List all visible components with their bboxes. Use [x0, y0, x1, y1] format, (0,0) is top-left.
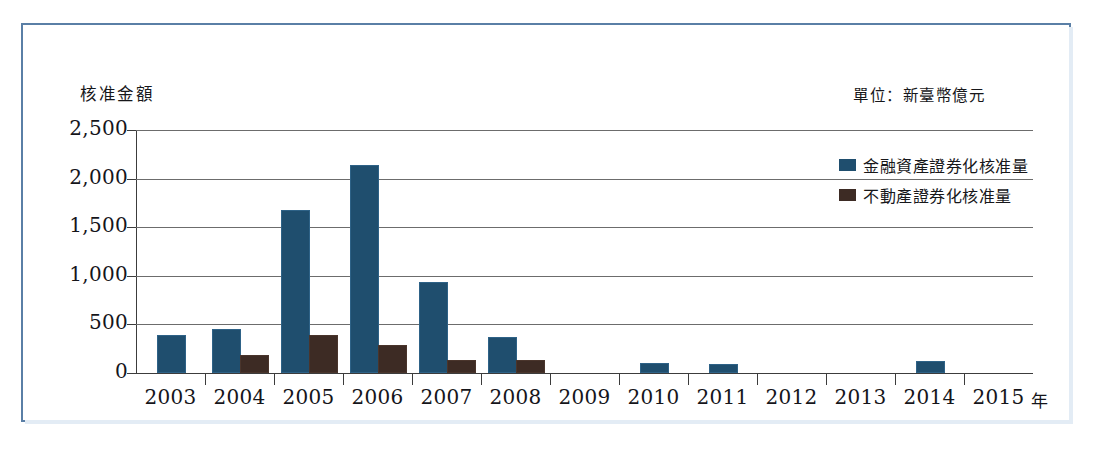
x-axis-tick-mark [688, 374, 689, 385]
x-axis-tick-label: 2004 [205, 385, 274, 409]
x-axis-tick-mark [757, 374, 758, 385]
y-axis-tick-mark [127, 179, 136, 180]
x-axis-tick-label: 2006 [343, 385, 412, 409]
bar-financial-2003 [157, 335, 186, 373]
chart-unit-note: 單位：新臺幣億元 [853, 83, 985, 105]
bar-financial-2004 [212, 329, 241, 373]
x-axis-tick-label: 2005 [274, 385, 343, 409]
bar-realestate-2004 [240, 355, 269, 373]
x-axis-tick-mark [550, 374, 551, 385]
gridline [136, 130, 1033, 131]
x-axis-tick-label: 2009 [550, 385, 619, 409]
gridline [136, 276, 1033, 277]
bar-financial-2010 [640, 363, 669, 373]
y-axis-tick-mark [127, 373, 136, 374]
y-axis-tick-mark [127, 130, 136, 131]
legend-label: 不動產證券化核准量 [863, 183, 1012, 207]
y-axis-title: 核准金額 [80, 81, 154, 105]
chart-legend: 金融資產證券化核准量不動產證券化核准量 [839, 150, 1089, 210]
legend-item: 不動產證券化核准量 [839, 180, 1089, 210]
legend-swatch-icon [839, 189, 856, 201]
x-axis-tick-mark [274, 374, 275, 385]
bar-financial-2005 [281, 210, 310, 373]
chart-frame: 核准金額 單位：新臺幣億元 2,5002,0001,5001,0005000 2… [21, 23, 1071, 422]
legend-item: 金融資產證券化核准量 [839, 150, 1089, 180]
x-axis-tick-label: 2014 [895, 385, 964, 409]
bar-financial-2007 [419, 282, 448, 373]
y-axis-tick-label: 0 [115, 359, 128, 383]
legend-swatch-icon [839, 159, 856, 171]
gridline [136, 324, 1033, 325]
x-axis-tick-label: 2007 [412, 385, 481, 409]
x-axis-tick-label: 2012 [757, 385, 826, 409]
x-axis-tick-mark [964, 374, 965, 385]
x-axis-tick-mark [481, 374, 482, 385]
x-axis-tick-mark [619, 374, 620, 385]
y-axis-tick-label: 500 [89, 310, 128, 334]
x-axis-tick-label: 2013 [826, 385, 895, 409]
y-axis-tick-label: 1,000 [69, 262, 128, 286]
bar-realestate-2005 [309, 335, 338, 373]
y-axis-tick-label: 1,500 [69, 213, 128, 237]
y-axis-tick-label: 2,000 [69, 165, 128, 189]
bar-financial-2008 [488, 337, 517, 373]
y-axis-line [136, 130, 137, 373]
y-axis-tick-label: 2,500 [69, 116, 128, 140]
legend-label: 金融資產證券化核准量 [863, 153, 1028, 177]
y-axis-tick-mark [127, 324, 136, 325]
x-axis-tick-label: 2008 [481, 385, 550, 409]
x-axis-tick-label: 2010 [619, 385, 688, 409]
x-axis-tick-labels: 2003200420052006200720082009201020112012… [136, 385, 1033, 413]
bar-realestate-2007 [447, 360, 476, 373]
x-axis-unit-label: 年 [1031, 387, 1048, 412]
y-axis-tick-mark [127, 276, 136, 277]
x-axis-tick-mark [412, 374, 413, 385]
y-axis-tick-mark [127, 227, 136, 228]
x-axis-line [135, 373, 1033, 374]
bar-realestate-2006 [378, 345, 407, 373]
x-axis-tick-label: 2011 [688, 385, 757, 409]
y-axis-tick-labels: 2,5002,0001,5001,0005000 [66, 130, 128, 373]
x-axis-tick-label: 2003 [136, 385, 205, 409]
x-axis-tick-mark [205, 374, 206, 385]
gridline [136, 227, 1033, 228]
x-axis-tick-mark [826, 374, 827, 385]
x-axis-tick-label: 2015 [964, 385, 1033, 409]
x-axis-tick-mark [343, 374, 344, 385]
bar-financial-2014 [916, 361, 945, 373]
bar-realestate-2008 [516, 360, 545, 373]
bar-financial-2011 [709, 364, 738, 373]
x-axis-tick-mark [895, 374, 896, 385]
bar-financial-2006 [350, 165, 379, 373]
